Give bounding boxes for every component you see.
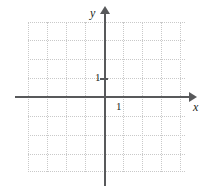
grid-line-horizontal	[28, 171, 185, 172]
y-axis	[104, 13, 106, 186]
grid-line-horizontal	[28, 40, 185, 41]
x-axis-label: x	[193, 101, 198, 113]
grid-line-horizontal	[28, 116, 185, 117]
x-axis-unit-label: 1	[116, 101, 122, 112]
y-axis-unit-label: 1	[95, 72, 101, 83]
grid-line-horizontal	[28, 59, 185, 60]
grid-line-horizontal	[28, 135, 185, 136]
y-axis-label: y	[90, 7, 95, 19]
y-axis-tick-1	[100, 78, 108, 80]
grid-line-horizontal	[28, 154, 185, 155]
coordinate-plane-figure: y x 1 1	[0, 0, 207, 193]
y-axis-arrow-icon	[100, 6, 110, 14]
grid-line-horizontal	[28, 22, 185, 23]
